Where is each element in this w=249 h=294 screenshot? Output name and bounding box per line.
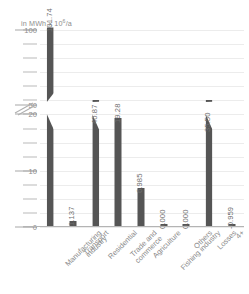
- bar-value-label: 35.50: [203, 112, 212, 132]
- bar: [115, 118, 122, 227]
- bar-value-label: 19.28: [113, 104, 122, 124]
- gridline: [40, 143, 244, 144]
- y-axis-tick: [23, 128, 37, 129]
- y-axis-tick: [23, 86, 37, 87]
- bar-value-label: 101.74: [45, 9, 54, 33]
- y-axis-tick: [23, 156, 37, 157]
- gridline: [40, 30, 244, 31]
- y-axis-tick-label: 0: [9, 223, 37, 232]
- plot-area: 1005020100 101.741.13740.8719.286.9850.0…: [40, 30, 244, 227]
- gridline: [40, 100, 244, 101]
- x-axis-baseline: [23, 226, 244, 227]
- gridline: [40, 171, 244, 172]
- y-axis-tick-label: 100: [9, 26, 37, 35]
- category-label-line: 4+: [234, 229, 246, 241]
- y-axis-tick: [23, 72, 37, 73]
- bar-value-label: 40.87: [90, 104, 99, 124]
- gridline: [40, 44, 244, 45]
- y-axis-tick: [23, 198, 37, 199]
- bar-segment-upper: [47, 27, 54, 102]
- y-axis-tick: [23, 58, 37, 59]
- gridline: [40, 58, 244, 59]
- gridline: [40, 72, 244, 73]
- x-axis-category-labels: ManufacturingindustryTransportResidentia…: [40, 229, 244, 294]
- y-axis-tick: [23, 184, 37, 185]
- bar-segment-lower: [92, 114, 99, 227]
- gridline: [40, 157, 244, 158]
- bar-segment-lower: [47, 114, 54, 227]
- bar-value-label: 1.137: [67, 206, 76, 226]
- y-axis-tick: [23, 142, 37, 143]
- gridline: [40, 129, 244, 130]
- y-axis-tick: [23, 212, 37, 213]
- bar-segment-upper: [92, 100, 99, 102]
- bar-value-label: 6.985: [135, 173, 144, 193]
- x-axis-category-label: 4+: [234, 229, 246, 241]
- bar-chart: in MWh x 106/a 1005020100 101.741.13740.…: [0, 0, 249, 294]
- bar: [138, 188, 145, 227]
- y-axis-unit-suffix: /a: [66, 19, 72, 28]
- gridline: [40, 227, 244, 228]
- gridline: [40, 86, 244, 87]
- bar-segment-upper: [206, 100, 213, 102]
- y-axis-tick-label: 10: [9, 166, 37, 175]
- y-axis-tick: [23, 44, 37, 45]
- axis-break-icon: [13, 100, 39, 116]
- gridline: [40, 114, 244, 115]
